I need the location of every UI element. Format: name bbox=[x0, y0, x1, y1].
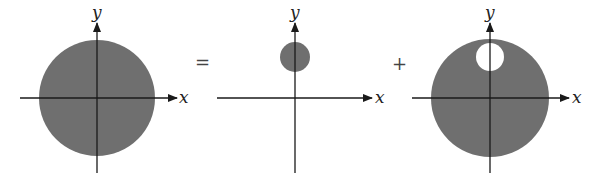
panel-disk-with-hole: x y bbox=[412, 2, 582, 173]
panel-small-disk: x y bbox=[217, 2, 385, 173]
x-axis-label: x bbox=[179, 87, 189, 107]
panel-full-disk: x y bbox=[20, 2, 189, 173]
plus-operator: + bbox=[392, 53, 407, 74]
y-axis-label: y bbox=[91, 2, 102, 22]
disk-decomposition-diagram: x y = x y + x y bbox=[0, 0, 595, 181]
x-axis-label: x bbox=[572, 87, 582, 107]
y-axis-label: y bbox=[289, 2, 300, 22]
equals-operator: = bbox=[195, 52, 210, 73]
y-axis-label: y bbox=[484, 2, 495, 22]
x-axis-label: x bbox=[375, 87, 385, 107]
